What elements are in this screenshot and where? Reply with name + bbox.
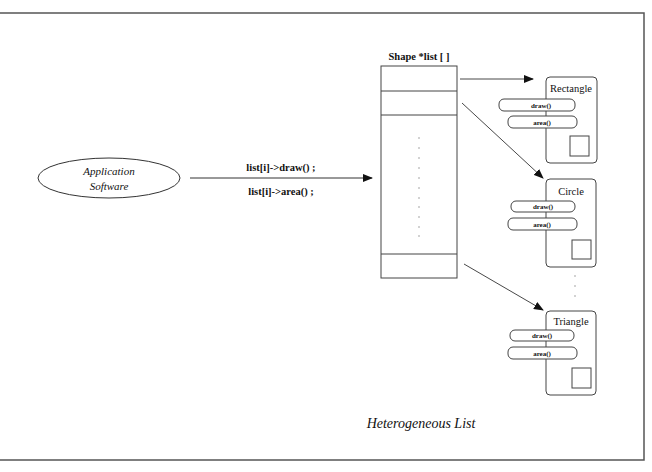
pointer-arrow-circle	[462, 103, 543, 178]
svg-text:draw(): draw()	[531, 102, 552, 110]
diagram-caption: Heterogeneous List	[366, 416, 477, 431]
svg-text:area(): area()	[533, 221, 551, 229]
client-label-line2: Software	[90, 180, 129, 192]
heterogeneous-list-diagram: Application Software list[i]->draw() ; l…	[0, 0, 652, 472]
object-name: Triangle	[553, 316, 589, 327]
svg-text:draw(): draw()	[532, 332, 553, 340]
array-title: Shape *list [ ]	[389, 51, 450, 62]
object-ellipsis-dots	[574, 275, 576, 297]
object-rectangle: Rectangle draw() area()	[499, 77, 597, 163]
object-circle: Circle draw() area()	[508, 179, 596, 267]
svg-text:area(): area()	[533, 119, 551, 127]
call-label-draw: list[i]->draw() ;	[246, 162, 315, 174]
svg-text:draw(): draw()	[533, 203, 554, 211]
object-name: Rectangle	[550, 83, 592, 94]
client-label-line1: Application	[82, 165, 135, 177]
object-data-square	[570, 136, 589, 156]
call-label-area: list[i]->area() ;	[248, 186, 314, 198]
object-triangle: Triangle draw() area()	[508, 311, 596, 395]
object-data-square	[572, 368, 591, 388]
pointer-arrow-triangle	[464, 264, 543, 310]
object-name: Circle	[558, 186, 584, 197]
shape-pointer-array: Shape *list [ ]	[381, 51, 457, 278]
object-data-square	[572, 240, 591, 259]
svg-text:area(): area()	[533, 350, 551, 358]
application-software-node: Application Software	[38, 158, 180, 198]
